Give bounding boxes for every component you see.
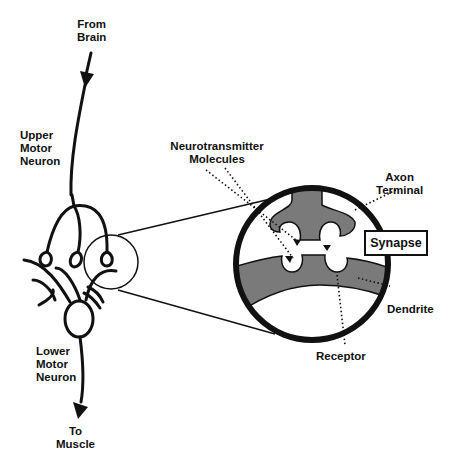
label-line: Brain — [77, 31, 106, 44]
label-line: From — [77, 18, 106, 31]
lower-neuron-soma — [65, 301, 93, 337]
arrow-down-icon — [80, 71, 94, 88]
label-line: Motor — [20, 142, 60, 155]
label-neurotransmitter-molecules: Neurotransmitter Molecules — [158, 140, 276, 166]
label-line: Molecules — [158, 153, 276, 166]
synapse-magnified — [230, 185, 395, 340]
lower-motor-neuron-axon — [80, 337, 83, 402]
label-from-brain: From Brain — [77, 18, 106, 44]
label-upper-motor-neuron: Upper Motor Neuron — [20, 129, 60, 168]
axon-branches — [47, 195, 107, 252]
synapse-label: Synapse — [370, 236, 421, 250]
label-line: Neurotransmitter — [158, 140, 276, 153]
label-line: Upper — [20, 129, 60, 142]
label-line: To — [56, 425, 95, 438]
label-line: Dendrite — [387, 303, 434, 315]
label-line: Neuron — [20, 155, 60, 168]
label-axon-terminal: Axon Terminal — [376, 171, 423, 197]
label-line: Muscle — [56, 438, 95, 451]
lower-neuron-dendrites — [24, 260, 116, 308]
label-receptor: Receptor — [316, 350, 366, 363]
label-line: Neuron — [36, 371, 76, 384]
arrow-down-icon — [73, 402, 88, 419]
diagram-canvas: From Brain Upper Motor Neuron Lower Moto… — [0, 0, 458, 466]
label-line: Receptor — [316, 350, 366, 362]
label-dendrite: Dendrite — [387, 303, 434, 316]
label-lower-motor-neuron: Lower Motor Neuron — [36, 345, 76, 384]
label-to-muscle: To Muscle — [56, 425, 95, 451]
label-line: Axon — [376, 171, 423, 184]
axon-terminal-bulbs — [40, 252, 112, 267]
label-line: Motor — [36, 358, 76, 371]
label-line: Lower — [36, 345, 76, 358]
synapse-box: Synapse — [364, 230, 428, 256]
label-line: Terminal — [376, 184, 423, 197]
